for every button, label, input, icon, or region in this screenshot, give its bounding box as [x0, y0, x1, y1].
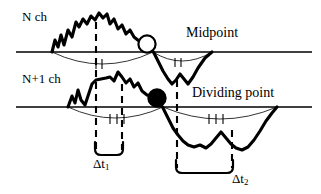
delta-t2-symbol: Δt — [232, 171, 244, 186]
dividing-point-marker-icon — [148, 89, 165, 106]
delta-t1-brace — [95, 142, 123, 155]
delta-t1-label: Δt1 — [93, 157, 109, 172]
delta-t2-label: Δt2 — [232, 172, 248, 187]
delta-t1-symbol: Δt — [93, 156, 105, 171]
delta-t2-brace — [176, 160, 233, 173]
lower-negative-envelope-arc — [163, 107, 277, 119]
waveform-diagram-figure: N ch N+1 ch Midpoint Dividing point Δt1 … — [0, 0, 321, 194]
midpoint-label: Midpoint — [186, 26, 238, 40]
channel-n-plus-1-label: N+1 ch — [22, 72, 61, 85]
dividing-point-label: Dividing point — [192, 86, 274, 100]
delta-t1-subscript: 1 — [105, 162, 109, 172]
ticks-upper-right — [175, 58, 181, 67]
midpoint-marker-icon — [138, 35, 155, 52]
delta-t2-subscript: 2 — [244, 177, 248, 187]
channel-n-waveform — [52, 13, 212, 84]
lower-positive-envelope-arc — [68, 107, 163, 118]
channel-n-label: N ch — [22, 10, 47, 23]
